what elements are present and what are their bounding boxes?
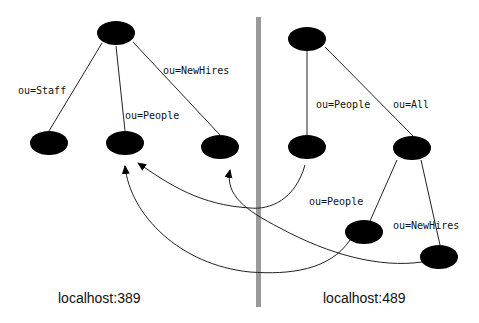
node-right-all[interactable] xyxy=(393,136,431,160)
edge-label-staff: ou=Staff xyxy=(18,85,66,96)
node-right-people[interactable] xyxy=(288,135,326,159)
node-left-newhires[interactable] xyxy=(201,135,239,159)
edge-label-right-people: ou=People xyxy=(316,99,370,110)
server-label-left: localhost:389 xyxy=(58,290,141,306)
edge-people xyxy=(116,46,125,131)
node-left-root[interactable] xyxy=(97,21,135,45)
referral-arrow-all-people xyxy=(125,166,350,273)
edge-label-all-people: ou=People xyxy=(309,196,363,207)
right-tree-nodes xyxy=(288,27,458,269)
node-right-root[interactable] xyxy=(288,27,326,51)
server-label-right: localhost:489 xyxy=(323,290,406,306)
node-left-people[interactable] xyxy=(106,131,144,155)
edge-label-newhires: ou=NewHires xyxy=(163,65,229,76)
referral-arrow-people xyxy=(138,163,305,208)
ldap-referral-diagram: ou=Staff ou=People ou=NewHires ou=People… xyxy=(0,0,479,323)
node-left-staff[interactable] xyxy=(30,131,68,155)
edge-label-people: ou=People xyxy=(125,110,179,121)
edge-newhires xyxy=(133,42,220,135)
server-divider xyxy=(256,17,261,307)
node-all-newhires[interactable] xyxy=(420,245,458,269)
referral-arrows xyxy=(125,163,422,273)
edge-all-people xyxy=(370,160,397,221)
node-all-people[interactable] xyxy=(345,220,383,244)
edge-right-all xyxy=(325,47,413,136)
edge-all-newhires xyxy=(421,160,440,245)
left-tree-edges xyxy=(49,42,220,135)
edge-label-right-all: ou=All xyxy=(393,99,429,110)
edge-label-all-newhires: ou=NewHires xyxy=(393,220,459,231)
